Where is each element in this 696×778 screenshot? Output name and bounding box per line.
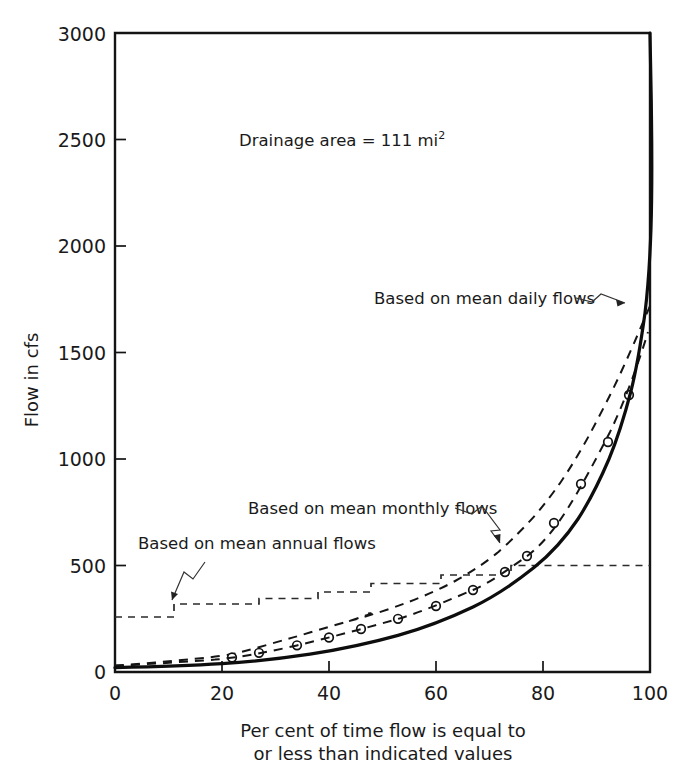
x-ticklabel-60: 60	[424, 682, 448, 704]
x-ticklabel-80: 80	[531, 682, 555, 704]
y-ticklabel-3000: 3000	[58, 23, 106, 45]
series-daily-flows	[115, 33, 652, 668]
drainage-area-superscript: 2	[438, 129, 445, 142]
x-axis-ticklabels: 0 20 40 60 80 100	[109, 682, 668, 704]
y-ticklabel-500: 500	[70, 555, 106, 577]
chart-svg: 0 500 1000 1500 2000 2500 3000 0 20 40 6…	[0, 0, 696, 778]
x-ticklabel-20: 20	[210, 682, 234, 704]
series-monthly-flows	[115, 306, 650, 666]
label-daily-flows: Based on mean daily flows	[374, 289, 595, 308]
label-annual-flows: Based on mean annual flows	[138, 534, 376, 553]
marker-point	[604, 438, 613, 447]
marker-point	[550, 519, 559, 528]
x-ticklabel-40: 40	[317, 682, 341, 704]
drainage-area-annotation: Drainage area = 111 mi2	[239, 129, 445, 150]
y-axis-ticklabels: 0 500 1000 1500 2000 2500 3000	[58, 23, 106, 683]
leader-arrowhead-monthly	[494, 534, 501, 543]
y-ticklabel-2000: 2000	[58, 235, 106, 257]
y-axis-title: Flow in cfs	[21, 333, 42, 428]
y-ticklabel-0: 0	[94, 661, 106, 683]
x-ticklabel-100: 100	[632, 682, 668, 704]
label-monthly-flows: Based on mean monthly flows	[248, 499, 497, 518]
series-annual-flows	[115, 566, 650, 618]
leader-arrowhead-daily	[616, 300, 625, 307]
x-axis-title-line1: Per cent of time flow is equal to	[240, 720, 526, 741]
x-ticklabel-0: 0	[109, 682, 121, 704]
y-ticklabel-2500: 2500	[58, 129, 106, 151]
leader-arrowhead-annual	[171, 592, 178, 601]
y-axis-ticks	[115, 33, 126, 672]
drainage-area-text: Drainage area = 111 mi	[239, 131, 438, 150]
y-ticklabel-1500: 1500	[58, 342, 106, 364]
flow-duration-chart-figure: 0 500 1000 1500 2000 2500 3000 0 20 40 6…	[0, 0, 696, 778]
y-ticklabel-1000: 1000	[58, 448, 106, 470]
x-axis-title-line2: or less than indicated values	[254, 743, 513, 764]
